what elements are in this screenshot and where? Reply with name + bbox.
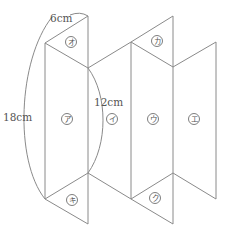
triangle-ki-bottom [45,199,88,224]
prism-net-diagram: 6cm 18cm 12cm オ カ ア イ ウ [0,0,230,233]
label-12cm: 12cm [94,96,123,108]
svg-text:イ: イ [109,115,116,124]
svg-text:ウ: ウ [150,115,157,124]
triangle-ka-bottom [131,42,173,67]
svg-text:カ: カ [154,37,161,46]
edge-top-i [88,42,131,68]
face-label-ki: キ [67,195,78,206]
face-label-u: ウ [148,114,159,125]
face-label-ku: ク [150,193,161,204]
label-18cm: 18cm [3,111,32,123]
label-6cm: 6cm [50,12,73,24]
arc-12cm [88,68,103,173]
face-label-e: エ [189,114,200,125]
svg-text:キ: キ [69,196,76,205]
arc-6cm [70,13,88,16]
dimension-arcs [24,13,103,199]
triangle-ki-top [45,173,88,199]
face-label-o: オ [66,37,77,48]
svg-text:エ: エ [191,115,198,124]
edge-bottom-e [173,173,216,199]
svg-text:ア: ア [64,115,71,124]
face-label-i: イ [107,114,118,125]
face-label-a: ア [62,114,73,125]
svg-text:オ: オ [68,38,75,47]
svg-text:ク: ク [152,194,159,203]
edge-bottom-i [88,173,131,199]
edge-top-e [173,42,216,67]
dimension-labels: 6cm 18cm 12cm [3,12,123,123]
diagram-svg: 6cm 18cm 12cm オ カ ア イ ウ [0,0,230,233]
face-label-ka: カ [152,36,163,47]
